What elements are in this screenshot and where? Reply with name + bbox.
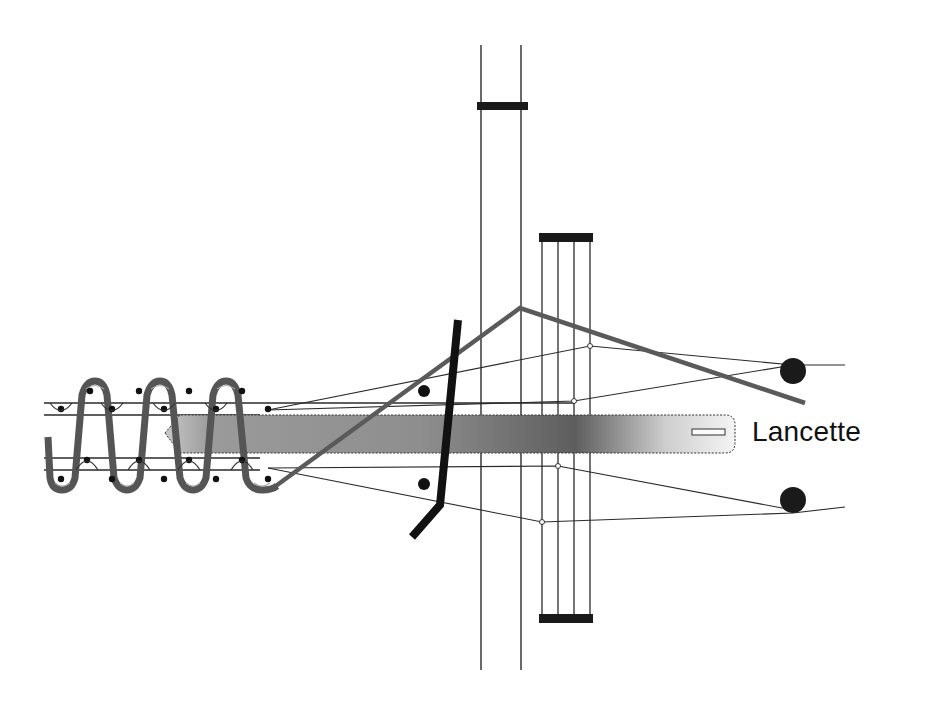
coil-dot <box>109 406 115 412</box>
harness-1 <box>477 45 528 670</box>
coil-spring <box>48 381 277 490</box>
coil-dot <box>58 476 64 482</box>
lancet-label: Lancette <box>752 416 861 448</box>
coil-dot <box>136 457 142 463</box>
coil-dot <box>213 406 219 412</box>
heddle-eye <box>540 520 545 525</box>
loom-diagram <box>0 0 936 714</box>
tension-roller-top <box>780 358 806 384</box>
harness-2-bottom-bar <box>539 614 593 623</box>
coil-dot <box>186 457 192 463</box>
coil-dot <box>58 406 64 412</box>
warp-thread <box>268 346 845 410</box>
weft-thread <box>273 308 805 488</box>
coil-dot <box>265 406 271 412</box>
reed-dot-bottom <box>418 478 430 490</box>
coil-dot <box>136 388 142 394</box>
coil-path <box>48 381 277 490</box>
warp-thread <box>268 468 845 522</box>
tension-roller-bottom <box>780 487 806 513</box>
coil-dot <box>186 388 192 394</box>
coil-dot <box>239 388 245 394</box>
warp-thread <box>268 466 793 510</box>
coil-dot <box>87 388 93 394</box>
coil-dot <box>161 476 167 482</box>
coil-dot <box>109 476 115 482</box>
reed-dot-top <box>418 385 430 397</box>
harness-2-top-bar <box>539 233 593 242</box>
coil-dot <box>84 457 90 463</box>
heddle-eye <box>556 464 561 469</box>
coil-dot <box>213 476 219 482</box>
coil-dot <box>265 476 271 482</box>
heddle-eye <box>588 344 593 349</box>
coil-dot <box>239 457 245 463</box>
coil-dot <box>161 406 167 412</box>
lancet-slot <box>692 429 725 435</box>
heddle-eye <box>572 399 577 404</box>
harness-1-bar <box>477 102 528 110</box>
